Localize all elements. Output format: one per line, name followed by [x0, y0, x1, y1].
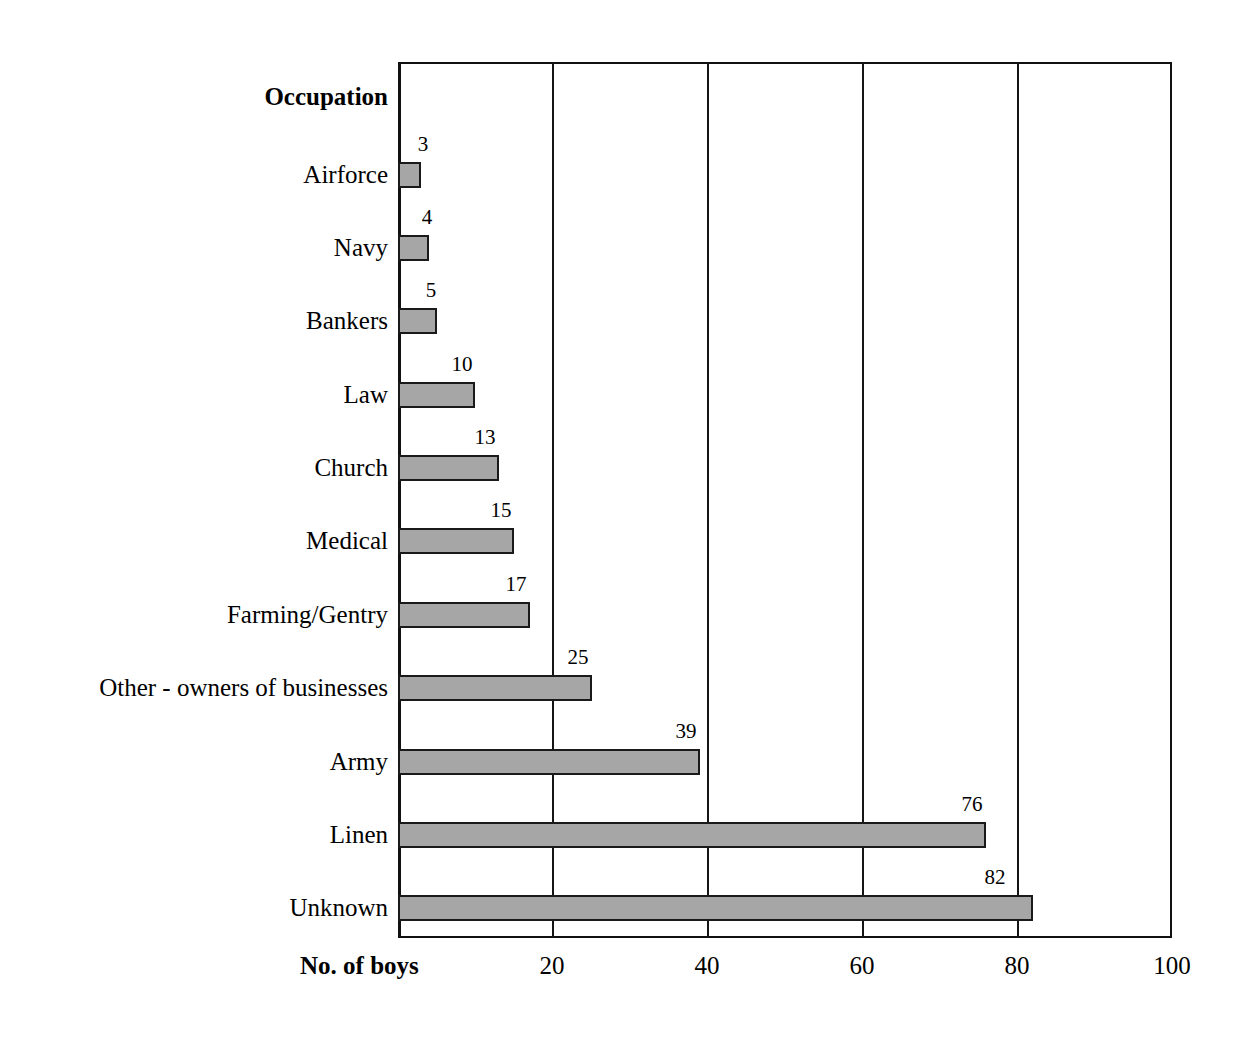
chart-row: Bankers 5: [0, 306, 1243, 336]
bar-value-label: 13: [465, 427, 505, 448]
gridline-20: [552, 62, 554, 938]
chart-row: Other - owners of businesses 25: [0, 673, 1243, 703]
bar-navy: 4: [398, 235, 429, 261]
category-label: Army: [0, 747, 388, 777]
bar-value-label: 3: [403, 134, 443, 155]
xtick-label-80: 80: [977, 952, 1057, 980]
xtick-label-60: 60: [822, 952, 902, 980]
bar-law: 10: [398, 382, 475, 408]
category-label: Navy: [0, 233, 388, 263]
chart-row: Navy 4: [0, 233, 1243, 263]
chart-row: Airforce 3: [0, 160, 1243, 190]
category-label: Farming/Gentry: [0, 600, 388, 630]
bar-medical: 15: [398, 528, 514, 554]
category-label: Other - owners of businesses: [0, 673, 388, 703]
x-axis-title: No. of boys: [300, 952, 470, 980]
bar-value-label: 10: [442, 354, 482, 375]
bar-value-label: 82: [975, 867, 1015, 888]
category-label: Linen: [0, 820, 388, 850]
chart-row: Linen 76: [0, 820, 1243, 850]
category-label: Church: [0, 453, 388, 483]
chart-row: Medical 15: [0, 526, 1243, 556]
bar-unknown: 82: [398, 895, 1033, 921]
category-label: Bankers: [0, 306, 388, 336]
bar-linen: 76: [398, 822, 986, 848]
chart-row: Unknown 82: [0, 893, 1243, 923]
bar-other-owners-of-businesses: 25: [398, 675, 592, 701]
bar-value-label: 4: [407, 207, 447, 228]
category-label: Law: [0, 380, 388, 410]
bar-value-label: 5: [411, 280, 451, 301]
category-label: Unknown: [0, 893, 388, 923]
bar-value-label: 25: [558, 647, 598, 668]
chart-row: Army 39: [0, 747, 1243, 777]
bar-bankers: 5: [398, 308, 437, 334]
category-label: Medical: [0, 526, 388, 556]
bar-value-label: 15: [481, 500, 521, 521]
bar-value-label: 17: [496, 574, 536, 595]
bar-airforce: 3: [398, 162, 421, 188]
bar-value-label: 76: [952, 794, 992, 815]
xtick-label-40: 40: [667, 952, 747, 980]
chart-row: Church 13: [0, 453, 1243, 483]
y-axis-title: Occupation: [0, 84, 388, 109]
gridline-60: [862, 62, 864, 938]
bar-value-label: 39: [666, 721, 706, 742]
xtick-label-100: 100: [1132, 952, 1212, 980]
xtick-label-20: 20: [512, 952, 592, 980]
gridline-40: [707, 62, 709, 938]
chart-row: Farming/Gentry 17: [0, 600, 1243, 630]
bar-chart: Occupation Airforce 3 Navy 4 Bankers 5 L…: [0, 0, 1243, 1056]
category-label: Airforce: [0, 160, 388, 190]
chart-row: Law 10: [0, 380, 1243, 410]
bar-farming-gentry: 17: [398, 602, 530, 628]
bar-church: 13: [398, 455, 499, 481]
gridline-80: [1017, 62, 1019, 938]
bar-army: 39: [398, 749, 700, 775]
